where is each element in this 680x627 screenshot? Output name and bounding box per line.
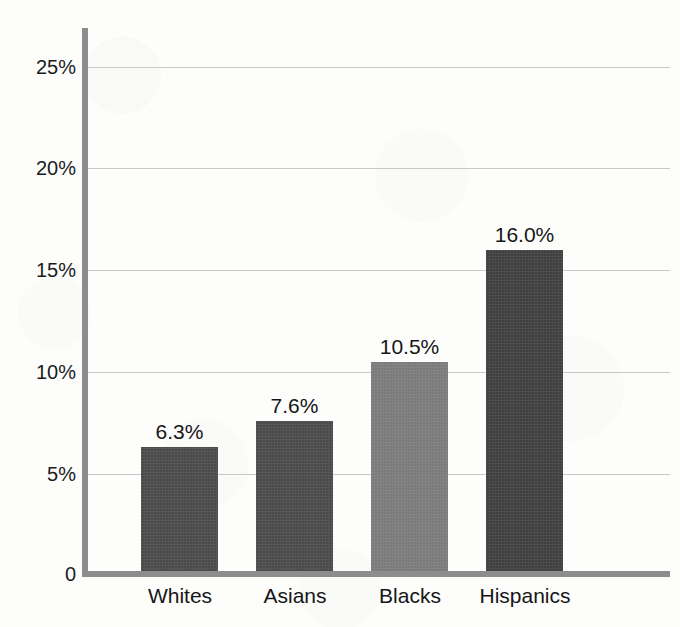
bar-value-label-blacks: 10.5%	[380, 335, 440, 359]
x-axis-line	[82, 571, 670, 577]
y-tick-label-25: 25%	[0, 56, 76, 79]
bar-asians[interactable]	[256, 421, 333, 575]
y-tick-label-10: 10%	[0, 361, 76, 384]
y-tick-label-0: 0	[0, 563, 76, 586]
x-tick-label-whites: Whites	[148, 584, 212, 608]
x-tick-label-blacks: Blacks	[379, 584, 441, 608]
bar-chart-figure: 6.3% 7.6% 10.5% 16.0% 25% 20% 15% 10% 5%…	[0, 0, 680, 627]
gridline-25	[88, 67, 670, 68]
bar-blacks[interactable]	[371, 362, 448, 575]
y-tick-label-5: 5%	[0, 463, 76, 486]
gridline-20	[88, 168, 670, 169]
x-tick-label-hispanics: Hispanics	[479, 584, 570, 608]
plot-area: 6.3% 7.6% 10.5% 16.0%	[88, 28, 670, 575]
bar-whites[interactable]	[141, 447, 218, 575]
y-tick-label-20: 20%	[0, 157, 76, 180]
bar-value-label-hispanics: 16.0%	[495, 223, 555, 247]
x-tick-label-asians: Asians	[263, 584, 326, 608]
bar-value-label-whites: 6.3%	[156, 420, 204, 444]
bar-value-label-asians: 7.6%	[271, 394, 319, 418]
y-axis-line	[82, 28, 88, 577]
y-tick-label-15: 15%	[0, 259, 76, 282]
gridline-15	[88, 270, 670, 271]
bar-hispanics[interactable]	[486, 250, 563, 575]
